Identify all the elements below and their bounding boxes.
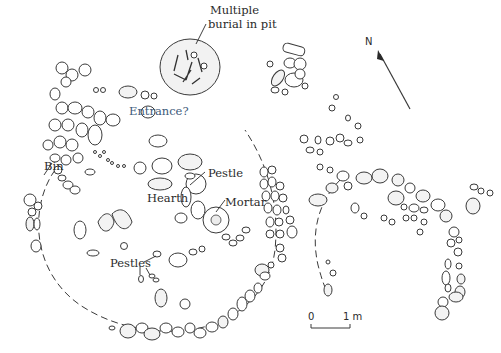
north-arrow (377, 50, 410, 109)
stone-cluster-left-wall (24, 194, 42, 252)
mortar-label: Mortar (225, 197, 266, 209)
burial-pit (160, 39, 220, 95)
stone-cluster-hearth (134, 154, 206, 223)
site-plan-drawing (0, 0, 501, 353)
hearth-label: Hearth (147, 193, 188, 205)
stone-cluster-top-right (267, 42, 308, 95)
stone-cluster-upper-left (50, 62, 157, 100)
pestle-label: Pestle (208, 168, 243, 180)
scale-start-label: 0 (308, 312, 314, 322)
scale-bar (311, 324, 350, 328)
burial-label-line2: burial in pit (208, 19, 277, 31)
bin-label: Bin (44, 161, 64, 173)
stone-cluster-bottom-wall (109, 283, 262, 340)
north-arrow-head-icon (377, 50, 384, 61)
stone-cluster-shared-wall (255, 166, 297, 280)
site-plan: Multiple burial in pit Entrance? Bin Pes… (0, 0, 501, 353)
mortar-stone (203, 207, 229, 233)
pestles-label: Pestles (110, 258, 151, 270)
stone-cluster-right-structure (300, 95, 493, 321)
north-label: N (365, 37, 372, 47)
scale-end-label: 1 m (343, 312, 362, 322)
entrance-label: Entrance? (129, 106, 189, 118)
burial-label-line1: Multiple (210, 5, 259, 17)
